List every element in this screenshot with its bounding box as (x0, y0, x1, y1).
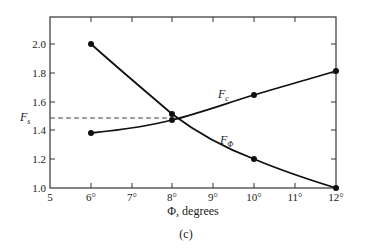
x-tick-10: 10° (246, 191, 261, 203)
chart: 5 6° 7° 8° 9° 10° 11° 12° 1.0 1.2 1.4 1.… (0, 0, 369, 249)
fc-point-12 (333, 68, 339, 74)
x-tick-5: 5 (47, 191, 53, 203)
fphi-point-6 (88, 41, 94, 47)
fphi-point-12 (333, 185, 339, 191)
x-tick-9: 9° (208, 191, 218, 203)
y-tick-1-2: 1.2 (32, 153, 46, 165)
y-ticks (50, 44, 336, 159)
y-tick-1-4: 1.4 (32, 124, 46, 136)
fc-point-8 (169, 117, 175, 123)
fphi-point-8 (169, 111, 175, 117)
y-tick-1-6: 1.6 (32, 96, 46, 108)
x-tick-12: 12° (328, 191, 343, 203)
fc-point-10 (251, 92, 257, 98)
data-points (88, 41, 339, 191)
y-axis-label: Fs (19, 110, 30, 126)
x-tick-labels: 5 6° 7° 8° 9° 10° 11° 12° (47, 191, 343, 203)
x-tick-8: 8° (167, 191, 177, 203)
figure-caption: (c) (179, 227, 192, 241)
fc-curve (91, 71, 336, 133)
y-tick-2-0: 2.0 (32, 38, 46, 50)
fc-point-6 (88, 130, 94, 136)
y-tick-1-0: 1.0 (32, 182, 46, 194)
y-tick-labels: 1.0 1.2 1.4 1.6 1.8 2.0 (32, 38, 46, 194)
fphi-point-10 (251, 156, 257, 162)
y-tick-1-8: 1.8 (32, 67, 46, 79)
fc-label: Fc (217, 87, 229, 103)
x-tick-11: 11° (288, 191, 303, 203)
x-tick-6: 6° (86, 191, 96, 203)
x-tick-7: 7° (127, 191, 137, 203)
x-axis-label: Φ, degrees (167, 204, 219, 218)
fphi-curve (91, 44, 336, 188)
fphi-label: FΦ (219, 133, 233, 149)
